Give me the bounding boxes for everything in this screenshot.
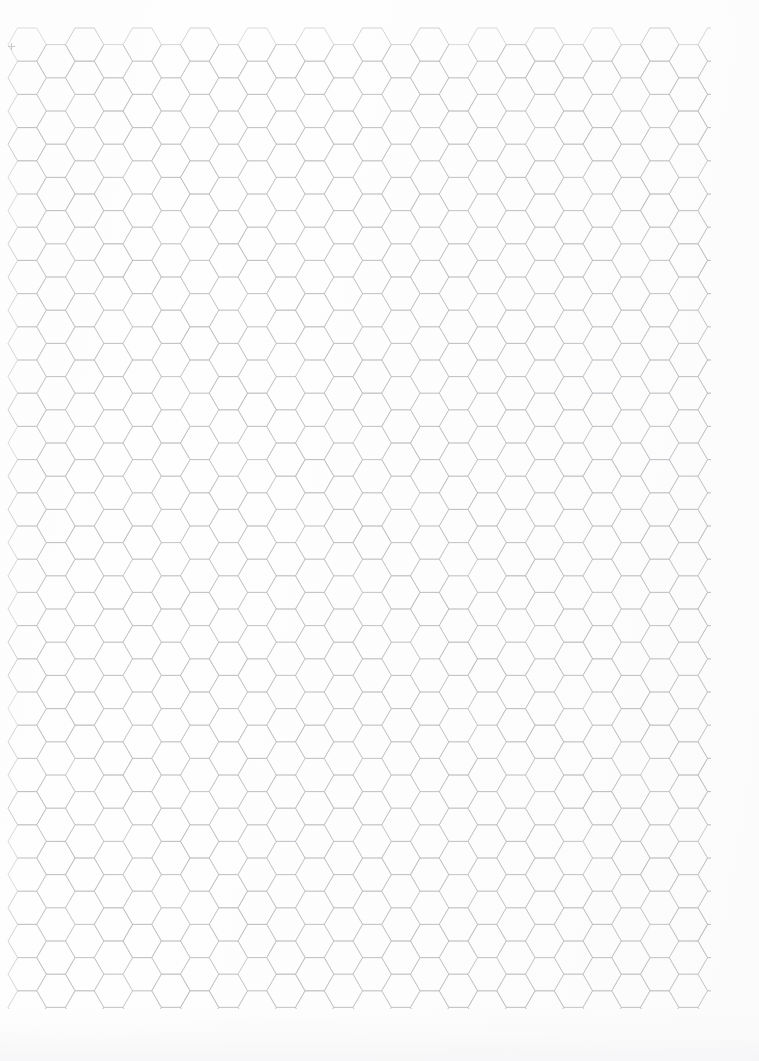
- hex-cell: [439, 310, 477, 343]
- hex-cell: [94, 576, 132, 609]
- hex-cell: [468, 260, 506, 293]
- hex-cell: [296, 924, 334, 957]
- hex-cell: [583, 924, 621, 957]
- hex-cell: [238, 559, 276, 592]
- hex-cell: [439, 45, 477, 78]
- hex-cell: [353, 493, 391, 526]
- hex-cell: [497, 509, 535, 542]
- hex-cell: [238, 825, 276, 858]
- hex-cell: [411, 659, 449, 692]
- hex-cell: [66, 758, 104, 791]
- hex-cell: [497, 742, 535, 775]
- hex-cell: [324, 244, 362, 277]
- hex-cell: [152, 177, 190, 210]
- hex-cell: [382, 974, 420, 1007]
- hex-cell: [382, 111, 420, 144]
- hex-cell: [152, 144, 190, 177]
- hex-cell: [123, 692, 161, 725]
- hex-cell: [439, 941, 477, 974]
- hex-cell: [526, 758, 564, 791]
- hex-cell: [324, 875, 362, 908]
- hex-cell: [669, 111, 707, 144]
- hex-cell: [669, 808, 707, 841]
- hex-cell: [296, 493, 334, 526]
- hex-cell: [181, 858, 219, 891]
- hex-cell: [324, 310, 362, 343]
- hex-cell: [324, 808, 362, 841]
- hex-cell: [238, 592, 276, 625]
- hex-cell: [411, 227, 449, 260]
- hex-cell: [382, 410, 420, 443]
- hex-cell: [296, 61, 334, 94]
- hex-cell: [181, 360, 219, 393]
- hex-cell: [66, 792, 104, 825]
- hex-cell: [8, 94, 46, 127]
- hex-cell: [669, 343, 707, 376]
- hex-cell: [209, 410, 247, 443]
- hex-cell: [66, 260, 104, 293]
- hex-cell: [296, 161, 334, 194]
- hex-cell: [641, 161, 679, 194]
- hex-cell: [181, 559, 219, 592]
- hex-cell: [238, 725, 276, 758]
- hex-cell: [181, 426, 219, 459]
- hex-cell: [641, 559, 679, 592]
- hex-cell: [181, 692, 219, 725]
- hex-cell: [267, 111, 305, 144]
- hex-cell: [382, 609, 420, 642]
- hex-cell: [296, 260, 334, 293]
- hex-cell: [669, 974, 707, 1007]
- hex-cell: [324, 177, 362, 210]
- hex-cell: [353, 128, 391, 161]
- hex-cell: [209, 1007, 247, 1040]
- hex-cell: [324, 377, 362, 410]
- hex-cell: [554, 841, 592, 874]
- hex-cell: [497, 78, 535, 111]
- hex-cell: [669, 742, 707, 775]
- hex-cell: [181, 294, 219, 327]
- hex-cell: [238, 94, 276, 127]
- hex-cell: [296, 825, 334, 858]
- hex-cell: [554, 775, 592, 808]
- hex-cell: [669, 244, 707, 277]
- hex-cell: [152, 244, 190, 277]
- hex-cell: [209, 642, 247, 675]
- hex-cell: [94, 1007, 132, 1040]
- hex-cell: [612, 841, 650, 874]
- hex-cell: [8, 393, 46, 426]
- hex-cell: [468, 227, 506, 260]
- hex-cell: [382, 177, 420, 210]
- hex-cell: [353, 526, 391, 559]
- hex-cell: [554, 808, 592, 841]
- hex-cell: [497, 941, 535, 974]
- hex-cell: [94, 211, 132, 244]
- hex-cell: [612, 941, 650, 974]
- hex-cell: [324, 144, 362, 177]
- hex-cell: [698, 61, 736, 94]
- hex-cell: [554, 476, 592, 509]
- hex-cell: [267, 443, 305, 476]
- hex-cell: [8, 626, 46, 659]
- hex-cell: [8, 28, 46, 61]
- hex-cell: [152, 443, 190, 476]
- hex-cell: [641, 792, 679, 825]
- hex-cell: [181, 61, 219, 94]
- hex-cell: [439, 78, 477, 111]
- hex-cell: [583, 194, 621, 227]
- hex-cell: [66, 94, 104, 127]
- hex-cell: [267, 177, 305, 210]
- hex-cell: [669, 509, 707, 542]
- hex-cell: [66, 426, 104, 459]
- hex-cell: [698, 94, 736, 127]
- hex-cell: [181, 460, 219, 493]
- hex-cell: [209, 343, 247, 376]
- hex-cell: [612, 576, 650, 609]
- hex-cell: [181, 161, 219, 194]
- hex-cell: [526, 692, 564, 725]
- hex-cell: [669, 45, 707, 78]
- hex-cell: [641, 991, 679, 1024]
- hex-cell: [238, 758, 276, 791]
- hex-cell: [238, 360, 276, 393]
- hex-cell: [66, 626, 104, 659]
- hex-cell: [411, 858, 449, 891]
